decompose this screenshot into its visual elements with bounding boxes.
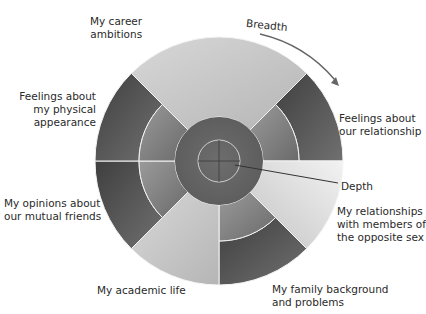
label-relationship: Feelings about our relationship bbox=[339, 112, 421, 138]
label-mutual-friends: My opinions about our mutual friends bbox=[4, 197, 94, 223]
label-opposite-sex: My relationships with members of the opp… bbox=[337, 205, 426, 244]
label-depth: Depth bbox=[341, 180, 373, 193]
breadth-arrowhead bbox=[331, 77, 339, 86]
wheel bbox=[95, 37, 343, 285]
label-career: My career ambitions bbox=[90, 15, 142, 41]
label-family: My family background and problems bbox=[272, 283, 388, 309]
label-academic: My academic life bbox=[97, 284, 186, 297]
label-physical: Feelings about my physical appearance bbox=[4, 90, 96, 129]
